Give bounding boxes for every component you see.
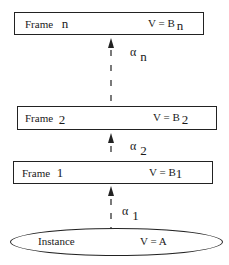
edge-label-alpha-n: αn — [130, 44, 147, 60]
value-label: V = B — [153, 111, 180, 123]
alpha-symbol: α — [130, 139, 136, 153]
frame-1-name: Frame 1 — [22, 165, 63, 181]
frame-index: 2 — [59, 112, 66, 127]
arrowhead-icon — [108, 133, 114, 143]
edge-label-alpha-1: α1 — [122, 203, 139, 219]
value-label: V = B — [148, 17, 175, 29]
instance-ellipse: Instance V = A — [10, 228, 223, 256]
alpha-symbol: α — [130, 45, 136, 59]
frame-2-box: Frame 2 V = B2 — [17, 106, 217, 130]
value-label: V = B — [149, 166, 176, 178]
edge-alpha-1 — [108, 186, 114, 229]
frame-n-value: V = Bn — [148, 15, 183, 31]
alpha-subscript: 1 — [132, 208, 139, 223]
alpha-symbol: α — [122, 204, 128, 218]
frame-index: n — [62, 16, 69, 31]
alpha-subscript: n — [140, 49, 147, 64]
frame-1-box: Frame 1 V = B1 — [13, 161, 213, 184]
alpha-subscript: 2 — [140, 143, 147, 158]
frame-n-box: Frame n V = Bn — [14, 12, 204, 35]
frame-2-name: Frame 2 — [25, 110, 65, 126]
instance-name: Instance — [38, 235, 75, 247]
connector-layer — [0, 0, 229, 265]
value-subscript: 2 — [182, 112, 189, 127]
instance-value: V = A — [140, 235, 167, 247]
arrowhead-icon — [108, 38, 114, 48]
edge-label-alpha-2: α2 — [130, 138, 147, 154]
frame-name-text: Frame — [25, 18, 53, 30]
frame-index: 1 — [57, 165, 64, 180]
frame-2-value: V = B2 — [153, 109, 188, 125]
value-subscript: 1 — [176, 166, 183, 181]
arrowhead-icon — [108, 186, 114, 196]
edge-alpha-n — [108, 38, 114, 106]
frame-n-name: Frame n — [25, 16, 68, 32]
value-subscript: n — [177, 18, 184, 33]
frame-1-value: V = B1 — [149, 164, 182, 180]
frame-name-text: Frame — [25, 112, 53, 124]
frame-name-text: Frame — [22, 167, 50, 179]
edge-alpha-2 — [108, 133, 114, 161]
